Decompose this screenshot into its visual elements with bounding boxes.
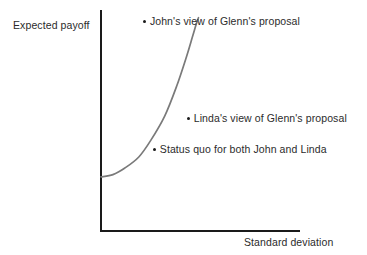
data-point-dot-icon [153,148,156,151]
data-point-dot-icon [187,117,190,120]
annotation-john-label: John's view of Glenn's proposal [150,15,300,28]
annotation-linda-label: Linda's view of Glenn's proposal [194,112,347,125]
annotation-linda: Linda's view of Glenn's proposal [187,112,347,125]
annotation-status-quo: Status quo for both John and Linda [153,143,327,156]
data-point-dot-icon [143,20,146,23]
frontier-curve [0,0,367,255]
annotation-status-quo-label: Status quo for both John and Linda [160,143,327,156]
diagram-canvas: Expected payoff Standard deviation John'… [0,0,367,255]
annotation-john: John's view of Glenn's proposal [143,15,300,28]
